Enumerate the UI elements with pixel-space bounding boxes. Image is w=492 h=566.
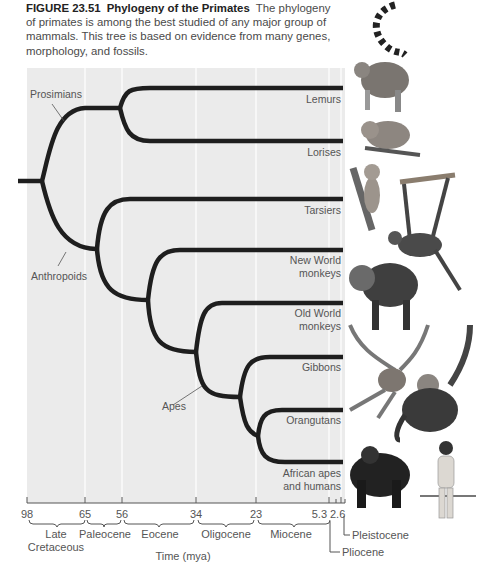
lemur-illustration [354,5,409,112]
gorilla-illustration [350,446,410,508]
mandrill-illustration [349,263,418,330]
human-illustration [420,441,476,518]
primate-illustrations [0,0,492,566]
tarsier-illustration [353,164,380,230]
loris-illustration [361,121,420,155]
orangutan-illustration [397,325,470,440]
